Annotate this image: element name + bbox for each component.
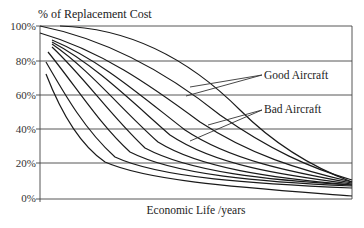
- y-tick-100: 100%: [10, 20, 36, 32]
- y-tick-80: 80%: [16, 55, 36, 67]
- y-axis-title: % of Replacement Cost: [38, 7, 152, 21]
- y-tick-60: 60%: [16, 89, 36, 101]
- good-aircraft-label: Good Aircraft: [264, 69, 329, 81]
- bad-aircraft-label: Bad Aircraft: [264, 103, 322, 115]
- y-tick-40: 40%: [16, 123, 36, 135]
- y-tick-0: 0%: [21, 192, 36, 204]
- annotation-leaders: [186, 75, 262, 141]
- y-tick-20: 20%: [16, 157, 36, 169]
- depreciation-chart: 100% 80% 60% 40% 20% 0% % of Replacement…: [0, 0, 364, 228]
- x-axis-title: Economic Life /years: [147, 204, 247, 217]
